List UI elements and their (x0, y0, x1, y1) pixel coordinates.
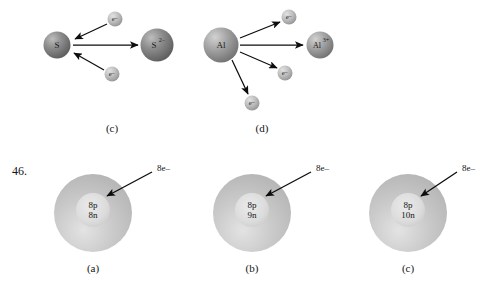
aluminum-atom: Al (204, 28, 239, 63)
aluminum-atom-label: Al (217, 40, 226, 50)
electron-label: e− (282, 69, 289, 76)
atom-c-caption: (c) (402, 262, 415, 275)
aluminum-ion-charge: 3+ (323, 37, 330, 43)
sulfide-ion: S 2− (141, 29, 174, 62)
atom-b-caption: (b) (246, 262, 259, 275)
panel-c-electron-1: e− (108, 12, 123, 27)
atom-a-electron-label: 8e– (157, 163, 170, 173)
electron-label: e− (249, 99, 256, 106)
electron-label: e− (109, 70, 116, 77)
sulfur-atom: S (44, 32, 71, 59)
panel-d-electron-1: e− (282, 10, 297, 25)
aluminum-ion-label: Al (313, 41, 322, 50)
chemistry-figure: S S 2− e− e− (c) (0, 0, 489, 285)
atom-b-electron-label: 8e– (316, 163, 329, 173)
neutron-count: 10n (401, 210, 415, 220)
neutron-count: 8n (89, 210, 99, 220)
neutron-count: 9n (248, 210, 258, 220)
item-number: 46. (12, 164, 27, 178)
atom-a-caption: (a) (87, 262, 100, 275)
panel-d-caption: (d) (256, 122, 269, 135)
electron-label: e− (286, 13, 293, 20)
panel-c-electron-2: e− (105, 67, 120, 82)
proton-count: 8p (404, 200, 414, 210)
electron-label: e− (112, 15, 119, 22)
atom-c-electron-label: 8e– (462, 163, 475, 173)
panel-c-caption: (c) (106, 122, 119, 135)
figure-page: S S 2− e− e− (c) (0, 0, 489, 285)
panel-d-electron-3: e− (245, 96, 260, 111)
sulfide-ion-label: S (151, 40, 156, 50)
proton-count: 8p (89, 200, 99, 210)
sulfide-ion-charge: 2− (159, 37, 166, 43)
panel-d-electron-2: e− (278, 66, 293, 81)
aluminum-ion: Al 3+ (307, 32, 334, 59)
proton-count: 8p (248, 200, 258, 210)
sulfur-atom-label: S (54, 40, 59, 50)
